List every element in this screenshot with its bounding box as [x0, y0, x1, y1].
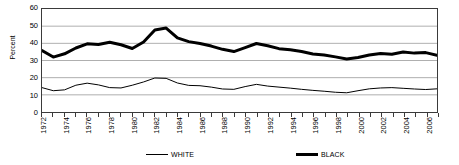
legend-line-swatch-icon [296, 153, 318, 156]
x-tick-label: 1974 [63, 117, 71, 134]
x-tick-label: 1984 [176, 117, 184, 134]
percent-by-race-line-chart: Percent 0102030405060 197219741976197819… [0, 0, 459, 165]
x-tick-mark [143, 113, 144, 117]
x-tick-mark [75, 113, 76, 117]
x-tick-mark [98, 113, 99, 117]
y-tick-label: 60 [12, 4, 38, 12]
x-tick-label: 2004 [403, 117, 411, 134]
x-tick-mark [415, 113, 416, 117]
y-tick-label: 30 [12, 57, 38, 65]
y-tick-label: 40 [12, 39, 38, 47]
x-tick-mark [438, 113, 439, 117]
x-tick-label: 1980 [131, 117, 139, 134]
plot-canvas [42, 9, 437, 112]
x-tick-label: 1976 [86, 117, 94, 134]
x-tick-label: 2002 [381, 117, 389, 134]
x-tick-label: 2000 [358, 117, 366, 134]
x-tick-label: 1994 [290, 117, 298, 134]
x-tick-label: 1988 [222, 117, 230, 134]
legend-label: WHITE [171, 151, 194, 158]
series-line-white [42, 78, 437, 93]
x-tick-mark [347, 113, 348, 117]
x-tick-mark [120, 113, 121, 117]
legend-line-swatch-icon [146, 154, 168, 155]
y-tick-label: 50 [12, 22, 38, 30]
x-tick-label: 1992 [267, 117, 275, 134]
x-tick-label: 1982 [154, 117, 162, 134]
x-tick-label: 1978 [108, 117, 116, 134]
x-tick-mark [370, 113, 371, 117]
x-tick-mark [52, 113, 53, 117]
x-tick-mark [257, 113, 258, 117]
y-axis-tick-labels: 0102030405060 [12, 0, 38, 120]
legend-entry-black[interactable]: BLACK [296, 148, 344, 160]
y-tick-label: 20 [12, 74, 38, 82]
plot-area [41, 8, 438, 113]
y-tick-label: 0 [12, 109, 38, 117]
x-tick-label: 2006 [426, 117, 434, 134]
y-tick-label: 10 [12, 92, 38, 100]
legend-label: BLACK [321, 151, 344, 158]
x-tick-mark [302, 113, 303, 117]
gridlines [42, 26, 437, 95]
x-tick-label: 1998 [335, 117, 343, 134]
x-tick-label: 1990 [244, 117, 252, 134]
chart-legend: WHITEBLACK [41, 148, 438, 162]
x-tick-mark [211, 113, 212, 117]
x-axis-tick-labels: 1972197419761978198019821984198619881990… [41, 113, 438, 149]
x-tick-mark [393, 113, 394, 117]
x-tick-mark [279, 113, 280, 117]
x-tick-mark [188, 113, 189, 117]
x-tick-label: 1986 [199, 117, 207, 134]
x-tick-mark [325, 113, 326, 117]
x-tick-mark [166, 113, 167, 117]
x-tick-mark [234, 113, 235, 117]
x-tick-label: 1996 [312, 117, 320, 134]
x-tick-label: 1972 [40, 117, 48, 134]
legend-entry-white[interactable]: WHITE [146, 148, 194, 160]
